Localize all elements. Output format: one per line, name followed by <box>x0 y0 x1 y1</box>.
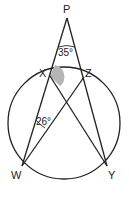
angle-label-p: 35° <box>58 47 73 58</box>
angle-label-w: 26° <box>36 116 51 127</box>
point-label-z: Z <box>85 67 92 79</box>
point-label-x: X <box>39 67 47 79</box>
chord-zw <box>22 77 84 166</box>
chord-xy <box>50 76 107 166</box>
point-label-w: W <box>11 169 22 181</box>
geometry-diagram: 35° 26° P X Z W Y <box>0 0 129 202</box>
point-label-y: Y <box>108 169 116 181</box>
point-label-p: P <box>63 3 70 15</box>
